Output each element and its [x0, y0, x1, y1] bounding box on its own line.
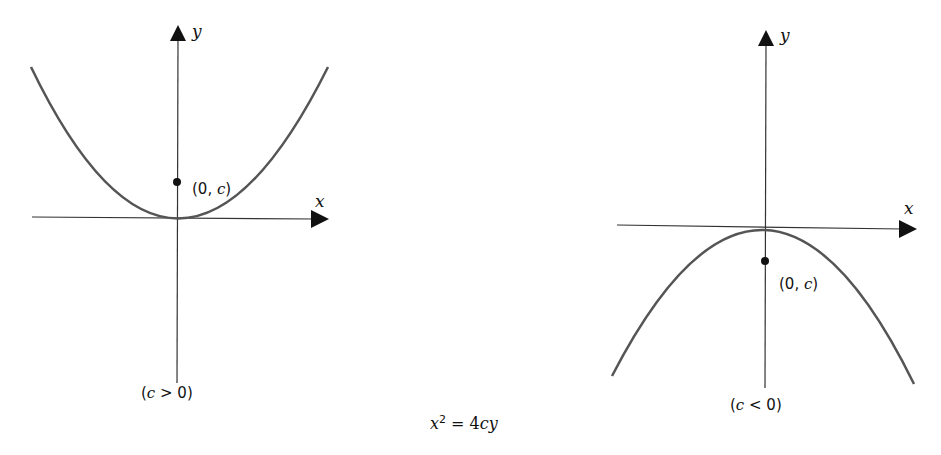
- equation-rhs: cy: [480, 414, 498, 433]
- left-focus-label-close: ): [225, 180, 231, 198]
- equation-equals: = 4: [446, 414, 480, 433]
- right-focus-label-close: ): [812, 275, 818, 293]
- right-condition-var: c: [736, 396, 744, 414]
- right-y-axis: [765, 43, 766, 388]
- left-graph: [31, 25, 329, 383]
- left-y-axis-label: y: [192, 21, 202, 41]
- right-graph: [612, 30, 917, 388]
- right-x-axis: [617, 225, 903, 229]
- right-x-axis-label: x: [904, 198, 914, 218]
- right-focus-label: (0, c): [779, 275, 818, 293]
- right-focus-point: [761, 257, 769, 265]
- left-focus-label: (0, c): [192, 180, 231, 198]
- left-condition-var: c: [147, 384, 155, 402]
- left-condition-rest: > 0): [155, 384, 193, 402]
- equation-label: x2 = 4cy: [430, 413, 498, 433]
- equation-exponent: 2: [439, 413, 446, 426]
- left-focus-label-open: (0,: [192, 180, 217, 198]
- left-x-axis-arrow-icon: [311, 210, 329, 228]
- right-parabola-curve: [612, 230, 914, 384]
- left-y-axis-arrow-icon: [170, 25, 186, 41]
- left-y-axis: [177, 38, 178, 383]
- right-condition-rest: < 0): [744, 396, 782, 414]
- left-parabola-curve: [31, 67, 328, 219]
- left-x-axis-label: x: [315, 191, 325, 211]
- right-y-axis-label: y: [780, 25, 790, 45]
- equation-lhs-var: x: [430, 414, 439, 433]
- right-y-axis-arrow-icon: [758, 30, 774, 46]
- left-condition-label: (c > 0): [141, 384, 193, 402]
- right-focus-label-open: (0,: [779, 275, 804, 293]
- right-x-axis-arrow-icon: [899, 220, 917, 238]
- right-condition-label: (c < 0): [730, 396, 782, 414]
- left-focus-point: [173, 178, 181, 186]
